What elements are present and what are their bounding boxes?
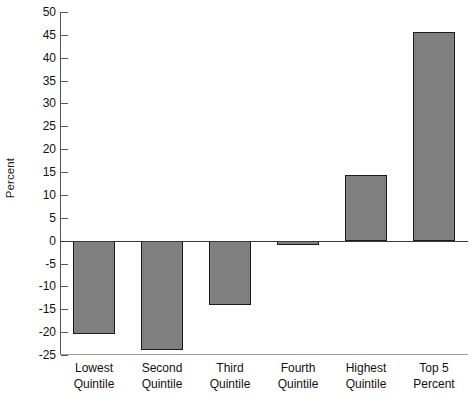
x-axis-label: SecondQuintile — [128, 360, 196, 392]
zero-reference-line — [60, 241, 468, 242]
bar — [413, 32, 455, 241]
y-axis-tick-label: 40 — [4, 52, 56, 64]
bar-chart: Percent 50454035302520151050-5-10-15-20-… — [0, 0, 475, 404]
y-axis-tick — [61, 126, 68, 127]
y-axis-tick-label: 0 — [4, 235, 56, 247]
x-axis-label: ThirdQuintile — [196, 360, 264, 392]
y-axis-spine — [60, 12, 61, 355]
y-axis-tick-label: 50 — [4, 6, 56, 18]
x-axis-label-line1: Fourth — [281, 361, 316, 375]
plot-area — [60, 12, 468, 355]
y-axis-tick — [61, 58, 68, 59]
x-axis-label-line1: Second — [142, 361, 183, 375]
x-axis-label-line2: Quintile — [128, 376, 196, 392]
x-axis-label: HighestQuintile — [332, 360, 400, 392]
x-axis-label-line2: Quintile — [60, 376, 128, 392]
x-axis-label-line2: Percent — [400, 376, 468, 392]
y-axis-tick — [61, 195, 68, 196]
y-axis-tick — [61, 103, 68, 104]
x-axis-category-labels: LowestQuintileSecondQuintileThirdQuintil… — [60, 360, 468, 404]
x-axis-label-line1: Third — [216, 361, 243, 375]
y-axis-tick — [61, 355, 68, 356]
x-axis-label-line1: Top 5 — [419, 361, 448, 375]
bar — [345, 175, 387, 241]
y-axis-tick — [61, 332, 68, 333]
bar — [73, 241, 115, 335]
y-axis-tick-label: 45 — [4, 29, 56, 41]
y-axis-tick-label: -20 — [4, 326, 56, 338]
x-axis-label: Top 5Percent — [400, 360, 468, 392]
y-axis-tick — [61, 149, 68, 150]
x-axis-label-line1: Lowest — [75, 361, 113, 375]
y-axis-tick-label: -25 — [4, 349, 56, 361]
y-axis-tick-label: 10 — [4, 189, 56, 201]
y-axis-tick-label: 25 — [4, 120, 56, 132]
x-axis-label: FourthQuintile — [264, 360, 332, 392]
y-axis-tick-labels: 50454035302520151050-5-10-15-20-25 — [0, 12, 56, 355]
x-axis-label: LowestQuintile — [60, 360, 128, 392]
y-axis-tick-label: 35 — [4, 75, 56, 87]
y-axis-tick — [61, 12, 68, 13]
y-axis-tick — [61, 35, 68, 36]
y-axis-tick — [61, 81, 68, 82]
x-axis-line — [60, 354, 468, 355]
y-axis-tick — [61, 264, 68, 265]
bar — [209, 241, 251, 305]
y-axis-tick — [61, 218, 68, 219]
y-axis-tick-label: 20 — [4, 143, 56, 155]
y-axis-tick-label: 15 — [4, 166, 56, 178]
bar — [141, 241, 183, 351]
x-axis-label-line2: Quintile — [196, 376, 264, 392]
y-axis-tick — [61, 172, 68, 173]
y-axis-tick-label: 30 — [4, 97, 56, 109]
y-axis-tick-label: 5 — [4, 212, 56, 224]
x-axis-label-line1: Highest — [346, 361, 387, 375]
y-axis-tick — [61, 309, 68, 310]
x-axis-label-line2: Quintile — [264, 376, 332, 392]
y-axis-tick-label: -15 — [4, 303, 56, 315]
y-axis-tick — [61, 286, 68, 287]
x-axis-label-line2: Quintile — [332, 376, 400, 392]
y-axis-tick-label: -5 — [4, 258, 56, 270]
y-axis-tick-label: -10 — [4, 280, 56, 292]
